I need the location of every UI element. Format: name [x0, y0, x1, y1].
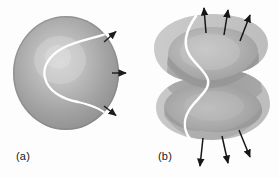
panel-b-label: (b): [158, 150, 172, 162]
panel-a-label: (a): [16, 150, 30, 162]
figure-canvas: [0, 0, 279, 178]
shape-b-inner-group: [164, 27, 262, 140]
sphere-a-highlight-core: [45, 45, 71, 69]
